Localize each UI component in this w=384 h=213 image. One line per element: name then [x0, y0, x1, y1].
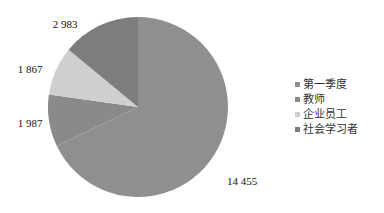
legend-item: 社会学习者 [295, 122, 358, 137]
legend: 第一季度 教师 企业员工 社会学习者 [295, 77, 358, 137]
slice-value-label: 1 987 [18, 117, 43, 129]
slice-value-label: 14 455 [227, 175, 258, 187]
legend-item: 第一季度 [295, 77, 358, 92]
legend-item: 教师 [295, 92, 358, 107]
legend-label: 企业员工 [303, 107, 347, 122]
slice-value-label: 2 983 [53, 18, 78, 30]
legend-label: 社会学习者 [303, 122, 358, 137]
legend-swatch [295, 127, 300, 132]
legend-swatch [295, 82, 300, 87]
legend-item: 企业员工 [295, 107, 358, 122]
legend-swatch [295, 112, 300, 117]
slice-value-label: 1 867 [18, 63, 43, 75]
legend-swatch [295, 97, 300, 102]
legend-label: 第一季度 [303, 77, 347, 92]
legend-label: 教师 [303, 92, 325, 107]
